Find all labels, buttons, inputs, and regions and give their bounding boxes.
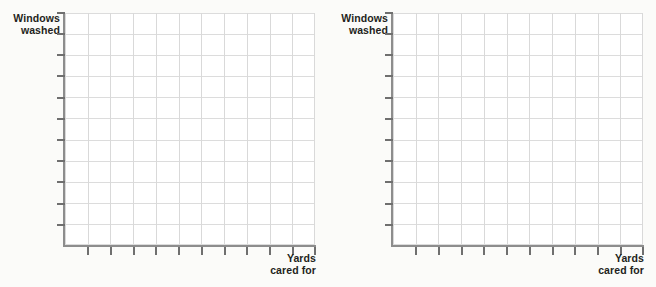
x-tick: [246, 247, 248, 255]
x-tick: [201, 247, 203, 255]
y-tick: [57, 12, 65, 14]
chart-panel-left: Windows washed: [0, 0, 328, 287]
y-axis-label-line1: Windows: [13, 12, 60, 24]
grid-right-edge-right: [642, 13, 643, 245]
x-tick: [574, 247, 576, 255]
x-tick: [506, 247, 508, 255]
y-axis-label-line2: washed: [13, 24, 60, 36]
gridlines-right: [393, 13, 643, 245]
x-tick: [415, 247, 417, 255]
x-tick: [133, 247, 135, 255]
y-tick: [57, 203, 65, 205]
y-tick: [57, 139, 65, 141]
y-tick: [385, 118, 393, 120]
grid-right-edge-left: [314, 13, 315, 245]
x-tick: [552, 247, 554, 255]
x-axis-line-right: [391, 245, 644, 247]
y-tick: [57, 118, 65, 120]
y-tick: [385, 181, 393, 183]
y-tick: [385, 160, 393, 162]
y-axis-label-line2: washed: [341, 24, 388, 36]
y-tick: [57, 75, 65, 77]
x-tick: [529, 247, 531, 255]
y-tick: [385, 203, 393, 205]
x-axis-label-left: Yards cared for: [270, 252, 316, 276]
y-axis-label-right: Windows washed: [341, 12, 388, 36]
y-tick: [385, 139, 393, 141]
x-tick: [87, 247, 89, 255]
y-tick: [57, 224, 65, 226]
x-tick: [461, 247, 463, 255]
x-tick: [224, 247, 226, 255]
y-tick: [385, 97, 393, 99]
x-tick: [110, 247, 112, 255]
gridlines-left: [65, 13, 315, 245]
plot-area-right[interactable]: [393, 13, 643, 245]
x-tick: [178, 247, 180, 255]
y-tick: [57, 181, 65, 183]
y-tick: [57, 33, 65, 35]
x-axis-label-right: Yards cared for: [598, 252, 644, 276]
x-tick: [483, 247, 485, 255]
y-tick: [57, 97, 65, 99]
x-axis-line-left: [63, 245, 316, 247]
y-tick: [385, 12, 393, 14]
plot-area-left[interactable]: [65, 13, 315, 245]
y-tick: [57, 160, 65, 162]
x-axis-label-line2: cared for: [270, 264, 316, 276]
y-axis-label-line1: Windows: [341, 12, 388, 24]
y-tick: [385, 224, 393, 226]
y-axis-line-left: [63, 12, 65, 247]
y-tick: [385, 33, 393, 35]
y-axis-line-right: [391, 12, 393, 247]
x-axis-label-line2: cared for: [598, 264, 644, 276]
y-tick: [385, 75, 393, 77]
y-axis-label-left: Windows washed: [13, 12, 60, 36]
x-axis-label-line1: Yards: [598, 252, 644, 264]
x-axis-label-line1: Yards: [270, 252, 316, 264]
y-tick: [57, 54, 65, 56]
y-tick: [385, 54, 393, 56]
x-tick: [438, 247, 440, 255]
worksheet-grid-pair: Windows washed: [0, 0, 656, 287]
x-tick: [155, 247, 157, 255]
chart-panel-right: Windows washed: [328, 0, 656, 287]
